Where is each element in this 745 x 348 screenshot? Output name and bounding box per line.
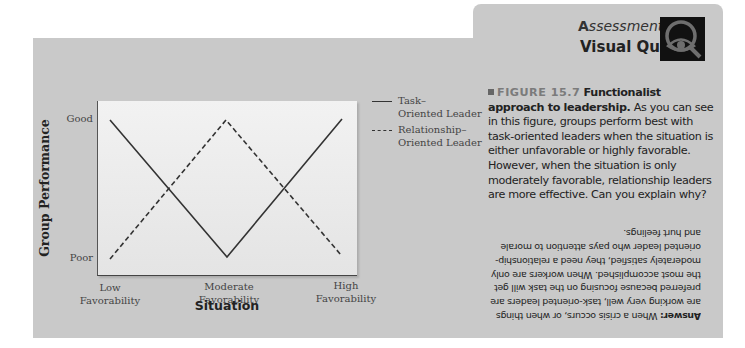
figure-caption: FIGURE 15.7 Functionalist approach to le… [488, 86, 720, 203]
solid-line-swatch [372, 101, 392, 102]
x-tick-low: Low Favorability [65, 281, 155, 307]
figure-label: FIGURE 15.7 [497, 86, 580, 99]
task-oriented-series [110, 119, 342, 257]
magnifier-eye-icon [660, 17, 705, 61]
x-tick-high: High Favorability [301, 279, 391, 305]
relationship-oriented-series [110, 120, 341, 259]
quiz-answer: Answer: When a crisis occurs, or when th… [503, 226, 701, 323]
assessment-heading: Assessment [578, 18, 663, 34]
y-axis-label: Group Performance [37, 119, 52, 257]
answer-label: Answer: [660, 311, 701, 322]
x-axis-label: Situation [186, 298, 268, 313]
figure-body: As you can see in this figure, groups pe… [488, 101, 713, 202]
dashed-line-swatch [372, 130, 392, 131]
square-bullet-icon [488, 89, 494, 95]
